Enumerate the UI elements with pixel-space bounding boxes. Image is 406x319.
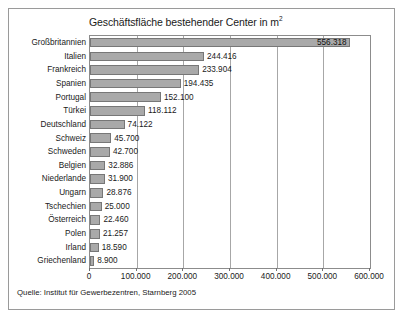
category-label: Deutschland xyxy=(40,118,86,132)
chart-figure: Geschäftsfläche bestehender Center in m2… xyxy=(8,8,395,310)
bar-row: Niederlande31.900 xyxy=(90,172,370,186)
bar-row: Ungarn28.876 xyxy=(90,186,370,200)
chart-title: Geschäftsfläche bestehender Center in m2 xyxy=(89,15,282,28)
bar xyxy=(90,202,102,212)
bar-value-label: 194.435 xyxy=(184,77,214,91)
bar-value-label: 8.900 xyxy=(97,254,118,268)
x-axis-tick xyxy=(369,268,370,271)
bar-row: Portugal152.100 xyxy=(90,91,370,105)
category-label: Österreich xyxy=(48,213,86,227)
category-label: Frankreich xyxy=(47,63,86,77)
category-label: Türkei xyxy=(63,104,86,118)
bar-row: Großbritannien556.318 xyxy=(90,36,370,50)
bar xyxy=(90,92,161,102)
chart-title-superscript: 2 xyxy=(279,15,283,22)
bar-row: Belgien32.886 xyxy=(90,159,370,173)
bar-row: Tschechien25.000 xyxy=(90,200,370,214)
bar xyxy=(90,120,125,130)
bar-value-label: 31.900 xyxy=(108,172,133,186)
x-axis-tick xyxy=(89,268,90,271)
category-label: Polen xyxy=(65,227,86,241)
bar xyxy=(90,243,99,253)
bar xyxy=(90,52,204,62)
bar-value-label: 22.460 xyxy=(103,213,128,227)
bar-row: Deutschland74.122 xyxy=(90,118,370,132)
x-axis-tick xyxy=(229,268,230,271)
x-axis-tick xyxy=(276,268,277,271)
bar-row: Türkei118.112 xyxy=(90,104,370,118)
bar-row: Polen21.257 xyxy=(90,227,370,241)
bar xyxy=(90,106,145,116)
category-label: Italien xyxy=(64,50,86,64)
category-label: Ungarn xyxy=(59,186,86,200)
x-axis: 0100.000200.000300.000400.000500.000600.… xyxy=(89,268,369,284)
category-label: Schweden xyxy=(48,145,86,159)
bar-value-label: 21.257 xyxy=(103,227,128,241)
bar xyxy=(90,229,100,239)
x-axis-tick xyxy=(182,268,183,271)
bar-row: Spanien194.435 xyxy=(90,77,370,91)
bar-value-label: 152.100 xyxy=(164,91,194,105)
category-label: Irland xyxy=(66,241,86,255)
bar xyxy=(90,188,103,198)
bar-row: Irland18.590 xyxy=(90,241,370,255)
bar xyxy=(90,256,94,266)
x-axis-tick-label: 600.000 xyxy=(354,272,384,281)
bar xyxy=(90,79,181,89)
x-axis-tick-label: 400.000 xyxy=(261,272,291,281)
x-axis-tick xyxy=(322,268,323,271)
bar-value-label: 244.416 xyxy=(207,50,237,64)
bar-value-label: 118.112 xyxy=(148,104,176,118)
bar-row: Frankreich233.904 xyxy=(90,63,370,77)
x-axis-tick-label: 100.000 xyxy=(121,272,151,281)
category-label: Schweiz xyxy=(56,132,87,146)
category-label: Spanien xyxy=(56,77,86,91)
bar-row: Schweiz45.700 xyxy=(90,132,370,146)
bar xyxy=(90,215,100,225)
category-label: Griechenland xyxy=(37,254,86,268)
bar-value-label: 32.886 xyxy=(108,159,133,173)
bar-value-label: 233.904 xyxy=(202,63,232,77)
x-axis-tick-label: 300.000 xyxy=(214,272,244,281)
bar-value-label: 28.876 xyxy=(106,186,131,200)
source-note: Quelle: Institut für Gewerbezentren, Sta… xyxy=(17,288,196,297)
bar xyxy=(90,161,105,171)
plot-area: Großbritannien556.318Italien244.416Frank… xyxy=(89,35,371,269)
bar xyxy=(90,133,111,143)
bar xyxy=(90,65,199,75)
category-label: Belgien xyxy=(59,159,86,173)
bar xyxy=(90,38,350,48)
bar-value-label: 42.700 xyxy=(113,145,138,159)
x-axis-tick-label: 0 xyxy=(87,272,92,281)
bar-value-label: 45.700 xyxy=(114,132,139,146)
chart-title-text: Geschäftsfläche bestehender Center in m xyxy=(89,16,279,28)
category-label: Portugal xyxy=(56,91,87,105)
category-label: Tschechien xyxy=(45,200,86,214)
bar-value-label: 25.000 xyxy=(105,200,130,214)
bar-value-label: 556.318 xyxy=(317,36,347,50)
bar xyxy=(90,174,105,184)
x-axis-tick xyxy=(136,268,137,271)
bar-row: Schweden42.700 xyxy=(90,145,370,159)
bar-value-label: 18.590 xyxy=(102,241,127,255)
bar xyxy=(90,147,110,157)
bar-row: Griechenland8.900 xyxy=(90,254,370,268)
bar-row: Italien244.416 xyxy=(90,50,370,64)
category-label: Niederlande xyxy=(42,172,86,186)
x-axis-tick-label: 500.000 xyxy=(308,272,338,281)
x-axis-tick-label: 200.000 xyxy=(168,272,198,281)
bar-row: Österreich22.460 xyxy=(90,213,370,227)
bar-value-label: 74.122 xyxy=(128,118,153,132)
category-label: Großbritannien xyxy=(31,36,86,50)
